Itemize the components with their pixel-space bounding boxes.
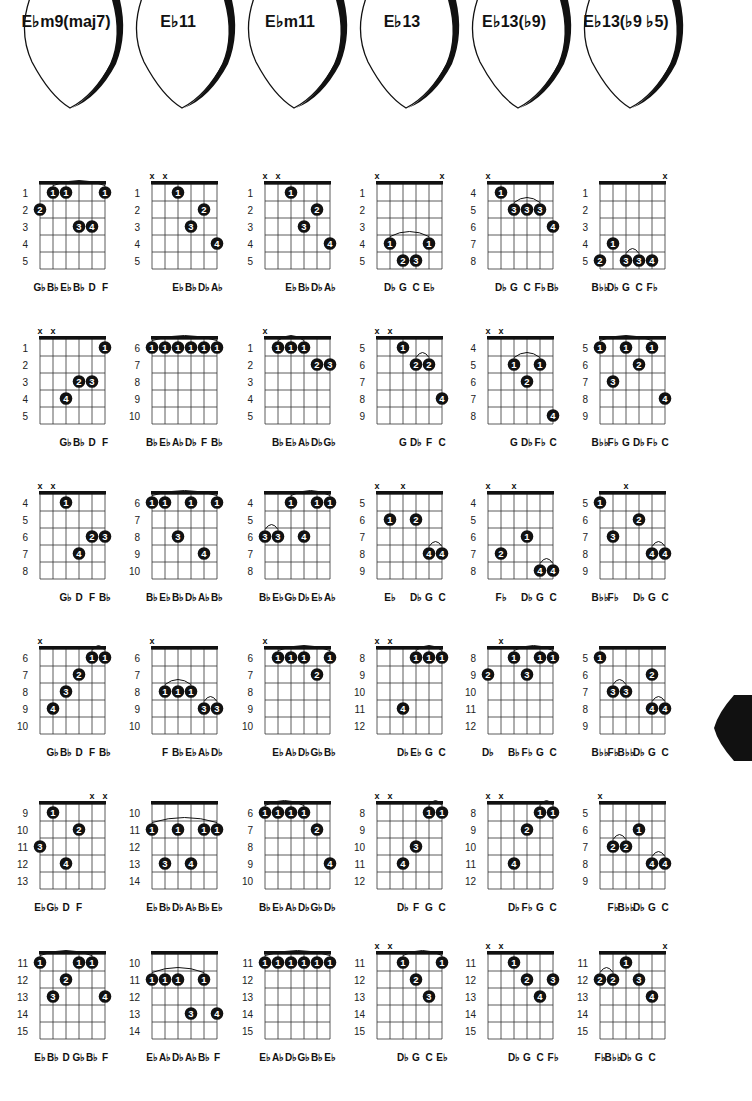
fret-number: 5 <box>359 343 365 354</box>
note-name: D♭ <box>198 282 210 293</box>
note-name: D♭ <box>172 1052 184 1063</box>
note-name: E♭ <box>159 437 171 448</box>
svg-text:1: 1 <box>149 497 155 508</box>
nut-bar <box>487 951 554 955</box>
finger-dot-icon: 1 <box>534 358 547 371</box>
finger-dot-icon: 2 <box>495 547 508 560</box>
nut-bar <box>39 491 106 495</box>
finger-dot-icon: 4 <box>211 1007 224 1020</box>
note-name: D♭ <box>508 902 520 913</box>
note-name: E♭ <box>34 902 46 913</box>
finger-dot-icon: 4 <box>324 857 337 870</box>
chord-diagram: xx567891224GD♭FC <box>349 325 459 455</box>
svg-text:4: 4 <box>426 548 432 559</box>
note-name: A♭ <box>198 747 210 758</box>
finger-dot-icon: 1 <box>198 823 211 836</box>
fret-number: 13 <box>354 992 366 1003</box>
svg-text:1: 1 <box>498 187 504 198</box>
fret-number: 14 <box>465 1009 477 1020</box>
finger-dot-icon: 1 <box>198 341 211 354</box>
fret-number: 5 <box>470 360 476 371</box>
svg-text:1: 1 <box>175 342 181 353</box>
note-name: A♭ <box>272 1052 284 1063</box>
chord-note-names: B♭♭F♭B♭♭D♭GC <box>572 747 682 761</box>
svg-text:3: 3 <box>301 221 306 232</box>
finger-dot-icon: 1 <box>324 956 337 969</box>
fret-number: 8 <box>247 842 253 853</box>
note-name: F♭ <box>534 282 545 293</box>
note-name: C <box>549 747 556 758</box>
svg-text:1: 1 <box>262 807 268 818</box>
svg-text:4: 4 <box>649 703 655 714</box>
fret-number: 9 <box>134 394 140 405</box>
fret-number: 10 <box>129 566 141 577</box>
note-name: G <box>399 282 407 293</box>
fret-number: 9 <box>470 670 476 681</box>
svg-text:4: 4 <box>439 548 445 559</box>
nut-bar <box>151 951 218 955</box>
note-name: B♭♭ <box>591 437 608 448</box>
svg-text:3: 3 <box>524 669 529 680</box>
svg-text:3: 3 <box>610 531 615 542</box>
fret-number: 8 <box>247 687 253 698</box>
note-name: D♭ <box>633 592 645 603</box>
svg-text:2: 2 <box>314 359 319 370</box>
note-name: G <box>622 282 630 293</box>
fret-number: 5 <box>22 411 28 422</box>
note-name: D♭ <box>185 437 197 448</box>
finger-dot-icon: 2 <box>410 358 423 371</box>
svg-text:1: 1 <box>201 974 207 985</box>
muted-string-x-icon: x <box>439 171 444 181</box>
note-name: D♭ <box>482 747 494 758</box>
svg-text:4: 4 <box>63 858 69 869</box>
muted-string-x-icon: x <box>498 791 503 801</box>
note-name: B♭ <box>86 1052 98 1063</box>
finger-dot-icon: 3 <box>534 203 547 216</box>
fret-number: 6 <box>134 653 140 664</box>
note-name: A♭ <box>285 747 297 758</box>
finger-dot-icon: 1 <box>423 237 436 250</box>
svg-text:1: 1 <box>275 807 281 818</box>
svg-text:1: 1 <box>63 187 69 198</box>
fret-number: 10 <box>465 842 477 853</box>
finger-dot-icon: 1 <box>211 341 224 354</box>
svg-text:1: 1 <box>149 824 155 835</box>
fret-number: 4 <box>22 394 28 405</box>
finger-dot-icon: 3 <box>185 220 198 233</box>
chord-diagram: xx456781124GD♭F♭C <box>460 325 570 455</box>
finger-dot-icon: 2 <box>646 668 659 681</box>
chord-note-names: F♭B♭♭D♭GC <box>572 902 682 916</box>
note-name: D♭ <box>324 902 336 913</box>
note-name: F <box>162 747 168 758</box>
svg-text:4: 4 <box>400 858 406 869</box>
svg-text:1: 1 <box>288 187 294 198</box>
svg-text:4: 4 <box>102 991 108 1002</box>
note-name: B♭ <box>172 592 184 603</box>
nut-bar <box>487 491 554 495</box>
finger-dot-icon: 1 <box>633 823 646 836</box>
chord-note-names: B♭♭D♭GCF♭ <box>572 282 682 296</box>
fret-number: 6 <box>359 515 365 526</box>
note-name: G <box>536 592 544 603</box>
finger-dot-icon: 3 <box>547 973 560 986</box>
fret-number: 11 <box>18 958 29 969</box>
note-name: G <box>622 437 630 448</box>
svg-text:3: 3 <box>188 221 193 232</box>
fret-number: 8 <box>582 704 588 715</box>
note-name: B♭ <box>146 592 158 603</box>
note-name: G <box>510 282 518 293</box>
fret-number: 8 <box>134 687 140 698</box>
svg-text:4: 4 <box>511 858 517 869</box>
fret-number: 10 <box>17 721 29 732</box>
svg-text:4: 4 <box>214 1008 220 1019</box>
nut-bar <box>264 181 331 185</box>
finger-dot-icon: 1 <box>436 651 449 664</box>
finger-dot-icon: 2 <box>34 203 47 216</box>
fret-number: 10 <box>17 825 29 836</box>
note-name: F <box>102 437 108 448</box>
finger-dot-icon: 2 <box>397 254 410 267</box>
muted-string-x-icon: x <box>662 941 667 951</box>
finger-dot-icon: 1 <box>259 956 272 969</box>
finger-dot-icon: 1 <box>272 651 285 664</box>
muted-string-x-icon: x <box>485 326 490 336</box>
